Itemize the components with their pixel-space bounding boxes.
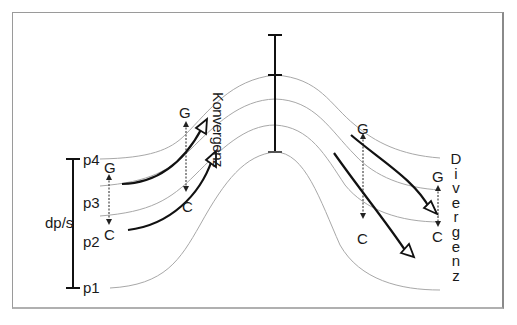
ridge-bar: [268, 35, 282, 152]
label-g-right: G: [432, 169, 444, 184]
label-g-mid-left: G: [179, 105, 191, 120]
label-c-mid-left: C: [182, 199, 193, 214]
label-p4: p4: [83, 152, 100, 167]
label-c-mid-right: C: [357, 231, 368, 246]
isobar-p3: [100, 99, 440, 190]
label-konvergenz: Konvergenz: [211, 92, 226, 167]
label-g-mid-right: G: [357, 121, 369, 136]
label-dp-s: dp/s: [45, 215, 73, 230]
diagram-canvas: [0, 0, 517, 325]
divergenz-letter: z: [449, 269, 463, 284]
label-p1: p1: [83, 280, 100, 295]
isobars: [100, 75, 440, 290]
label-p2: p2: [83, 234, 100, 249]
flow-arrow-upper-left: [122, 128, 202, 184]
label-p3: p3: [83, 195, 100, 210]
flow-arrow-lower-right: [334, 153, 407, 253]
flow-arrowheads: [196, 119, 437, 257]
label-divergenz: Divergenz: [449, 152, 463, 283]
label-c-left: C: [104, 227, 115, 242]
isobar-p2: [100, 125, 440, 222]
label-c-right: C: [432, 229, 443, 244]
isobar-p4: [100, 75, 440, 159]
label-g-left: G: [104, 160, 116, 175]
